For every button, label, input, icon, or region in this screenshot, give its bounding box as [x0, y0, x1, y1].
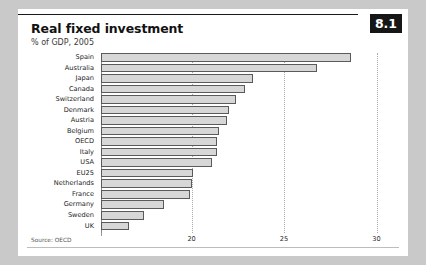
- bar: [101, 106, 229, 115]
- category-label: Italy: [31, 148, 94, 157]
- bar-track: [101, 190, 395, 199]
- category-label: Australia: [31, 64, 94, 73]
- bar-row: Austria: [31, 116, 395, 125]
- bar-track: [101, 222, 395, 231]
- chart-title: Real fixed investment: [31, 21, 183, 36]
- chart-figure: 8.1 Real fixed investment % of GDP, 2005…: [18, 9, 408, 256]
- bar-row: UK: [31, 222, 395, 231]
- category-label: France: [31, 190, 94, 199]
- bar: [101, 116, 227, 125]
- origin-tick-mark: [101, 233, 102, 236]
- x-tick-label: 30: [372, 235, 380, 243]
- bar-track: [101, 211, 395, 220]
- bar-track: [101, 64, 395, 73]
- bar-row: Belgium: [31, 127, 395, 136]
- bar: [101, 222, 129, 231]
- bar-track: [101, 148, 395, 157]
- bar: [101, 158, 212, 167]
- x-tick-label: 20: [187, 235, 195, 243]
- bar-row: Canada: [31, 85, 395, 94]
- bar-row: OECD: [31, 137, 395, 146]
- bar: [101, 64, 317, 73]
- bar: [101, 148, 217, 157]
- category-label: Germany: [31, 200, 94, 209]
- bar-track: [101, 200, 395, 209]
- bar-track: [101, 169, 395, 178]
- bar-track: [101, 116, 395, 125]
- bar: [101, 169, 193, 178]
- x-axis-ticks: 202530: [31, 235, 395, 247]
- bar-track: [101, 158, 395, 167]
- x-tick-label: 25: [280, 235, 288, 243]
- bar: [101, 200, 164, 209]
- category-label: EU25: [31, 169, 94, 178]
- category-label: Denmark: [31, 106, 94, 115]
- category-label: Japan: [31, 74, 94, 83]
- bar-row: Switzerland: [31, 95, 395, 104]
- category-label: Sweden: [31, 211, 94, 220]
- bar: [101, 53, 351, 62]
- bar: [101, 190, 190, 199]
- category-label: Spain: [31, 53, 94, 62]
- bar-row: Germany: [31, 200, 395, 209]
- bar-track: [101, 74, 395, 83]
- bar-track: [101, 179, 395, 188]
- bar-track: [101, 127, 395, 136]
- bar-rows: SpainAustraliaJapanCanadaSwitzerlandDenm…: [31, 53, 395, 231]
- bar: [101, 85, 245, 94]
- category-label: Austria: [31, 116, 94, 125]
- bar-row: Spain: [31, 53, 395, 62]
- bar-row: Sweden: [31, 211, 395, 220]
- bar-row: Denmark: [31, 106, 395, 115]
- bar-row: Netherlands: [31, 179, 395, 188]
- chart-subtitle: % of GDP, 2005: [31, 38, 94, 47]
- bar: [101, 127, 219, 136]
- category-label: USA: [31, 158, 94, 167]
- bar-row: France: [31, 190, 395, 199]
- bar: [101, 211, 144, 220]
- bar: [101, 95, 236, 104]
- bar-track: [101, 95, 395, 104]
- source-note: Source: OECD: [31, 237, 71, 243]
- header-divider: [18, 14, 358, 15]
- category-label: UK: [31, 222, 94, 231]
- bar-track: [101, 53, 395, 62]
- bar-row: Japan: [31, 74, 395, 83]
- bar: [101, 137, 217, 146]
- bar: [101, 74, 253, 83]
- category-label: Canada: [31, 85, 94, 94]
- bar: [101, 179, 192, 188]
- footer-divider: [27, 247, 399, 248]
- category-label: OECD: [31, 137, 94, 146]
- bar-row: USA: [31, 158, 395, 167]
- bar-row: EU25: [31, 169, 395, 178]
- bar-track: [101, 85, 395, 94]
- bar-row: Italy: [31, 148, 395, 157]
- chart-number-badge: 8.1: [370, 14, 402, 33]
- category-label: Switzerland: [31, 95, 94, 104]
- bar-row: Australia: [31, 64, 395, 73]
- category-label: Belgium: [31, 127, 94, 136]
- bar-track: [101, 137, 395, 146]
- plot-area: SpainAustraliaJapanCanadaSwitzerlandDenm…: [31, 53, 395, 233]
- bar-track: [101, 106, 395, 115]
- category-label: Netherlands: [31, 179, 94, 188]
